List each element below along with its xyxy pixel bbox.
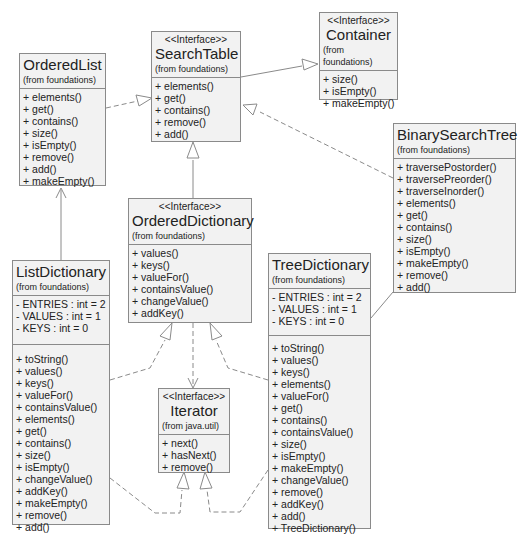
class-binary-search-tree[interactable]: BinarySearchTree (from foundations) + tr… [393,123,516,293]
operation: + valueFor() [132,271,248,283]
operation: + keys() [132,259,248,271]
realization-listdict-ordereddict [110,340,165,380]
operation: + valueFor() [272,390,367,402]
operation: + add() [23,163,102,175]
operation: + containsValue() [272,426,367,438]
operation: + remove() [16,509,106,521]
class-list-dictionary[interactable]: ListDictionary (from foundations) - ENTR… [12,260,110,525]
operation: + size() [23,127,102,139]
operation: + size() [272,438,367,450]
operation: + add() [397,281,512,293]
class-ordered-list[interactable]: OrderedList (from foundations) + element… [19,53,106,186]
class-ordered-dictionary[interactable]: <<Interface>> OrderedDictionary (from fo… [128,198,252,323]
operation: + add() [16,521,106,533]
class-name: OrderedList [23,56,102,74]
attribute: - VALUES : int = 1 [16,310,106,322]
class-search-table[interactable]: <<Interface>> SearchTable (from foundati… [151,31,241,142]
operation: + get() [23,103,102,115]
operation: + isEmpty() [323,85,394,97]
operation: + elements() [16,413,106,425]
class-container[interactable]: <<Interface>> Container (from foundation… [319,12,398,100]
operation: + isEmpty() [272,450,367,462]
operation: + values() [272,354,367,366]
operation: + changeValue() [132,295,248,307]
class-iterator[interactable]: <<Interface>> Iterator (from java.util) … [158,388,230,473]
operations-section: + toString() + values() + keys() + value… [13,345,109,535]
operation: + changeValue() [272,474,367,486]
operation: + valueFor() [16,389,106,401]
operation: + containsValue() [16,401,106,413]
realization-treedict-iterator [207,470,268,512]
operation: + addKey() [132,307,248,319]
class-tree-dictionary[interactable]: TreeDictionary (from foundations) - ENTR… [268,253,371,529]
package-label: (from foundations) [16,281,106,293]
operation: + makeEmpty() [323,97,394,109]
operation: + remove() [162,461,226,473]
attribute: - KEYS : int = 0 [16,322,106,334]
class-header: <<Interface>> Iterator (from java.util) [159,389,229,435]
operation: + remove() [272,486,367,498]
operation: + makeEmpty() [272,462,367,474]
attribute: - KEYS : int = 0 [272,315,367,327]
package-label: (from foundations) [23,74,102,86]
operation: + add() [155,128,237,140]
operation: + isEmpty() [397,245,512,257]
operation: + values() [16,365,106,377]
operation: + contains() [23,115,102,127]
class-name: ListDictionary [16,263,106,281]
operation: + contains() [16,437,106,449]
package-label: (from foundations) [132,230,248,242]
operation: + traversePostorder() [397,161,512,173]
attributes-section: - ENTRIES : int = 2 - VALUES : int = 1 -… [13,296,109,345]
operation: + get() [272,402,367,414]
operation: + addKey() [16,485,106,497]
operation: + traverseInorder() [397,185,512,197]
operation: + elements() [23,91,102,103]
operation: + keys() [272,366,367,378]
operation: + makeEmpty() [16,497,106,509]
operation: + remove() [23,151,102,163]
class-header: <<Interface>> OrderedDictionary (from fo… [129,199,251,245]
stereotype-label: <<Interface>> [132,201,248,212]
attribute: - ENTRIES : int = 2 [272,291,367,303]
class-name: Iterator [162,402,226,420]
hollow-arrowhead-icon [302,59,318,70]
operation: + addKey() [272,498,367,510]
operation: + get() [397,209,512,221]
operations-section: + size() + isEmpty() + makeEmpty() [320,71,397,111]
operations-section: + toString() + values() + keys() + eleme… [269,336,370,536]
realization-treedict-ordereddict [216,340,268,380]
class-name: Container [323,26,394,44]
realization-bst-searchtable [260,112,393,178]
attribute: - ENTRIES : int = 2 [16,298,106,310]
class-name: TreeDictionary [272,256,367,274]
hollow-arrowhead-icon [160,323,172,340]
class-name: SearchTable [155,45,237,63]
class-header: ListDictionary (from foundations) [13,261,109,296]
operation: + get() [16,425,106,437]
class-header: TreeDictionary (from foundations) [269,254,370,289]
stereotype-label: <<Interface>> [323,15,394,26]
stereotype-label: <<Interface>> [155,34,237,45]
operation: + values() [132,247,248,259]
operations-section: + values() + keys() + valueFor() + conta… [129,245,251,321]
association-treedict-bst [371,292,393,318]
operation: + keys() [16,377,106,389]
package-label: (from foundations) [155,63,237,75]
hollow-arrowhead-icon [210,323,222,340]
operation: + contains() [272,414,367,426]
realization-orderedlist-searchtable [106,101,138,108]
operation: + TreeDictionary() [272,522,367,534]
operations-section: + traversePostorder() + traversePreorder… [394,159,515,295]
operation: + traversePreorder() [397,173,512,185]
operation: + contains() [397,221,512,233]
class-header: OrderedList (from foundations) [20,54,105,89]
class-header: <<Interface>> SearchTable (from foundati… [152,32,240,78]
generalization-searchtable-container [241,66,302,77]
operation: + makeEmpty() [397,257,512,269]
attributes-section: - ENTRIES : int = 2 - VALUES : int = 1 -… [269,289,370,336]
realization-listdict-iterator [110,478,182,513]
operation: + elements() [155,80,237,92]
package-label: (from foundations) [323,44,394,68]
operation: + isEmpty() [16,461,106,473]
